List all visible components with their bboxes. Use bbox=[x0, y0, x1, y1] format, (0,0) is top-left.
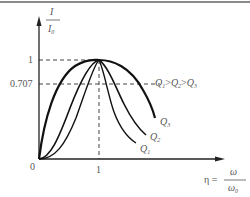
q3-sub: 3 bbox=[167, 122, 170, 128]
curve-q3 bbox=[39, 60, 155, 159]
x-label-numerator: ω bbox=[230, 167, 237, 177]
y-axis-arrow-icon bbox=[37, 16, 42, 26]
y-den-sub: 0 bbox=[51, 29, 54, 35]
curve-q1 bbox=[39, 60, 136, 159]
label-q3: Q3 bbox=[160, 117, 170, 128]
q2-sub: 2 bbox=[157, 137, 160, 143]
x-axis-arrow-icon bbox=[215, 157, 225, 162]
rel-q3-sub: 3 bbox=[194, 83, 197, 89]
x-label-eta: η = bbox=[204, 175, 217, 185]
y-label-numerator: I bbox=[50, 7, 53, 17]
tick-x-1: 1 bbox=[96, 165, 101, 175]
x-label-denominator: ω0 bbox=[228, 183, 238, 194]
tick-x-0: 0 bbox=[30, 162, 35, 172]
label-q2: Q2 bbox=[150, 132, 160, 143]
curve-q2 bbox=[39, 60, 146, 159]
tick-y-0707: 0.707 bbox=[10, 79, 33, 89]
rel-q3: Q bbox=[187, 77, 194, 88]
x-den-text: ω bbox=[228, 182, 235, 193]
tick-y-1: 1 bbox=[28, 55, 33, 65]
x-den-sub: 0 bbox=[235, 188, 238, 194]
q1-sub: 1 bbox=[147, 149, 150, 155]
q-relation-annotation: Q1>Q2>Q3 bbox=[155, 78, 197, 89]
y-label-denominator: I0 bbox=[48, 24, 54, 35]
label-q1: Q1 bbox=[140, 144, 150, 155]
resonance-curves-diagram bbox=[0, 0, 250, 197]
